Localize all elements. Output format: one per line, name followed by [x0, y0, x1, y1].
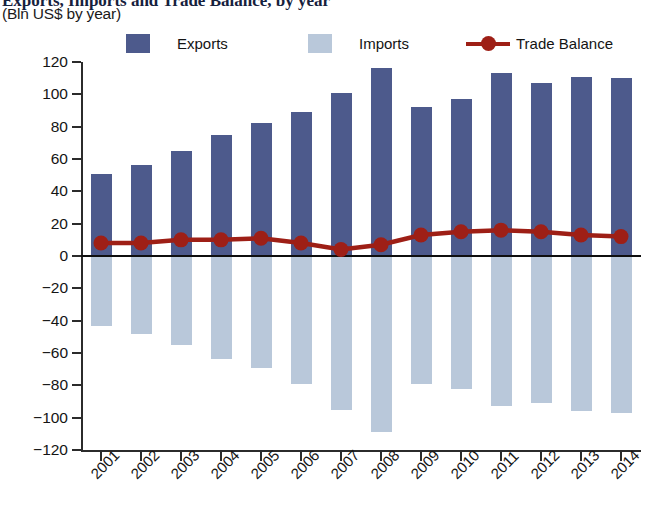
plot-area: 120100806040200−20−40−60−80−100−120 2001… [81, 62, 641, 450]
x-axis-line [81, 450, 641, 452]
trade-balance-point [174, 232, 189, 247]
trade-balance-point [214, 232, 229, 247]
legend-label-imports: Imports [359, 35, 409, 52]
y-axis-tick [72, 126, 81, 128]
y-axis-tick [72, 352, 81, 354]
trade-balance-point [494, 223, 509, 238]
y-axis-tick-label: 120 [42, 53, 68, 71]
y-axis-tick [72, 61, 81, 63]
trade-balance-point [374, 237, 389, 252]
y-axis-tick [72, 158, 81, 160]
imports-swatch-icon [308, 34, 332, 53]
y-axis-tick [72, 223, 81, 225]
y-axis-tick [72, 384, 81, 386]
trade-balance-point [334, 242, 349, 257]
trade-balance-point [614, 229, 629, 244]
y-axis-tick-label: −100 [33, 409, 68, 427]
trade-balance-point [414, 227, 429, 242]
x-axis-tick-label: 2011 [487, 447, 522, 482]
trade-balance-line-icon [466, 34, 510, 53]
y-axis-tick [72, 255, 81, 257]
y-axis-tick-label: −60 [42, 344, 68, 362]
legend-item-trade-balance[interactable]: Trade Balance [466, 30, 613, 56]
y-axis-tick [72, 190, 81, 192]
y-axis-tick [72, 417, 81, 419]
chart-subtitle: (Bln US$ by year) [2, 5, 121, 23]
trade-balance-point [94, 236, 109, 251]
exports-swatch-icon [126, 34, 150, 53]
y-axis-tick-label: −80 [42, 376, 68, 394]
y-axis-tick-label: −40 [42, 312, 68, 330]
trade-balance-point [574, 227, 589, 242]
legend-item-imports[interactable]: Imports [308, 30, 409, 56]
trade-chart: Exports, Imports and Trade Balance, by y… [0, 0, 657, 506]
y-axis-tick-label: 0 [59, 247, 68, 265]
y-axis-tick-label: 20 [51, 215, 68, 233]
y-axis-tick [72, 320, 81, 322]
y-axis-tick [72, 93, 81, 95]
y-axis-tick-label: −20 [42, 279, 68, 297]
trade-balance-point [254, 231, 269, 246]
trade-balance-point [134, 236, 149, 251]
legend-item-exports[interactable]: Exports [126, 30, 228, 56]
y-axis-tick-label: −120 [33, 441, 68, 459]
chart-legend: Exports Imports Trade Balance [126, 30, 646, 56]
trade-balance-point [454, 224, 469, 239]
y-axis-tick-label: 40 [51, 182, 68, 200]
x-axis-labels: 2001200220032004200520062007200820092010… [81, 464, 641, 506]
y-axis-tick-label: 80 [51, 118, 68, 136]
legend-label-exports: Exports [177, 35, 228, 52]
y-axis-tick [72, 287, 81, 289]
trade-balance-point [534, 224, 549, 239]
y-axis-tick-label: 100 [42, 85, 68, 103]
y-axis-tick [72, 449, 81, 451]
y-axis-tick-label: 60 [51, 150, 68, 168]
trade-balance-point [294, 236, 309, 251]
legend-label-trade-balance: Trade Balance [516, 35, 613, 52]
trade-balance-series [81, 62, 641, 450]
